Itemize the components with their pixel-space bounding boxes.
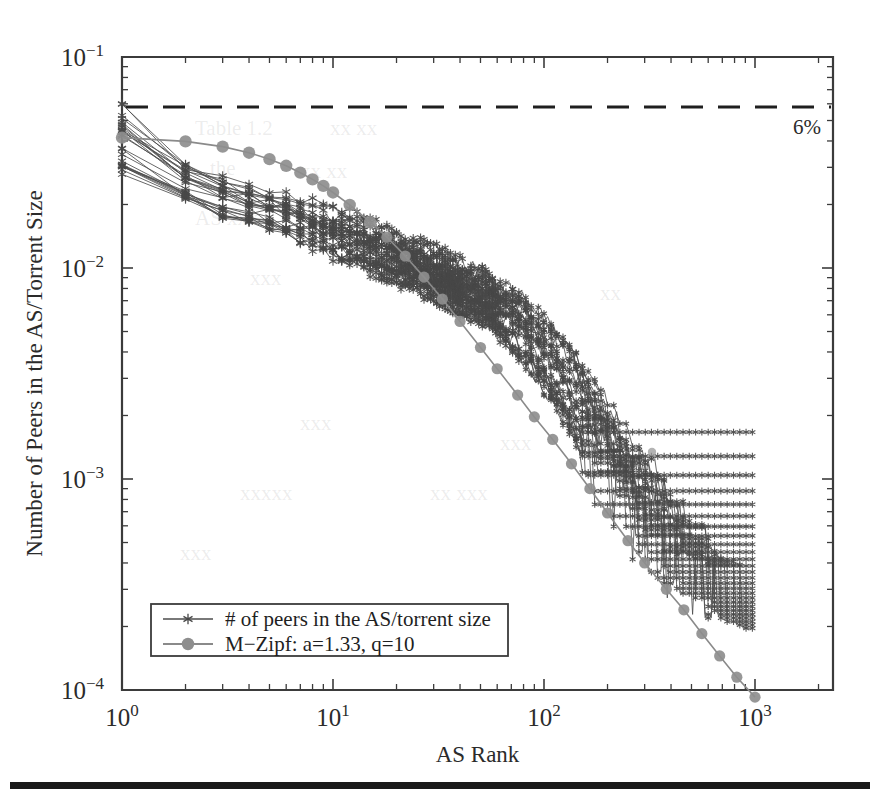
y-axis-title: Number of Peers in the AS/Torrent Size xyxy=(22,190,47,556)
x-axis-title: AS Rank xyxy=(436,742,520,767)
svg-text:xxx: xxx xyxy=(180,541,212,565)
y-tick-label-2: 10−3 xyxy=(61,463,104,493)
svg-text:Table 1.2: Table 1.2 xyxy=(195,116,273,140)
svg-text:xx xxx: xx xxx xyxy=(430,481,488,505)
y-tick-label-1: 10−2 xyxy=(61,252,104,282)
plot-layer: 10−110−210−310−4100101102103AS RankNumbe… xyxy=(22,41,833,767)
legend-label: # of peers in the AS/torrent size xyxy=(225,607,491,631)
x-tick-label-1: 101 xyxy=(316,701,350,731)
svg-text:xx: xx xyxy=(600,281,622,305)
svg-text:xxx: xxx xyxy=(250,266,282,290)
chart-legend: # of peers in the AS/torrent sizeM−Zipf:… xyxy=(151,604,508,656)
y-tick-label-0: 10−1 xyxy=(61,41,104,71)
x-tick-label-3: 103 xyxy=(738,701,772,731)
legend-label: M−Zipf: a=1.33, q=10 xyxy=(225,632,415,656)
x-tick-label-0: 100 xyxy=(105,701,139,731)
legend-circle-icon xyxy=(182,638,194,650)
svg-text:xxxxx: xxxxx xyxy=(240,481,293,505)
page-edge-bar xyxy=(10,782,870,789)
x-tick-label-2: 102 xyxy=(527,701,561,731)
threshold-label: 6% xyxy=(793,115,821,139)
log-log-chart: Table 1.2xx xxthexx xxAS xxxxxxxxxxxxxxx… xyxy=(0,0,882,806)
svg-text:xxx: xxx xyxy=(300,411,332,435)
scan-speck xyxy=(648,448,656,456)
y-tick-label-3: 10−4 xyxy=(61,674,105,704)
figure-panel: Table 1.2xx xxthexx xxAS xxxxxxxxxxxxxxx… xyxy=(0,0,882,806)
svg-text:xxx: xxx xyxy=(500,431,532,455)
data-series-band xyxy=(118,99,755,632)
svg-text:xx xx: xx xx xyxy=(330,116,378,140)
